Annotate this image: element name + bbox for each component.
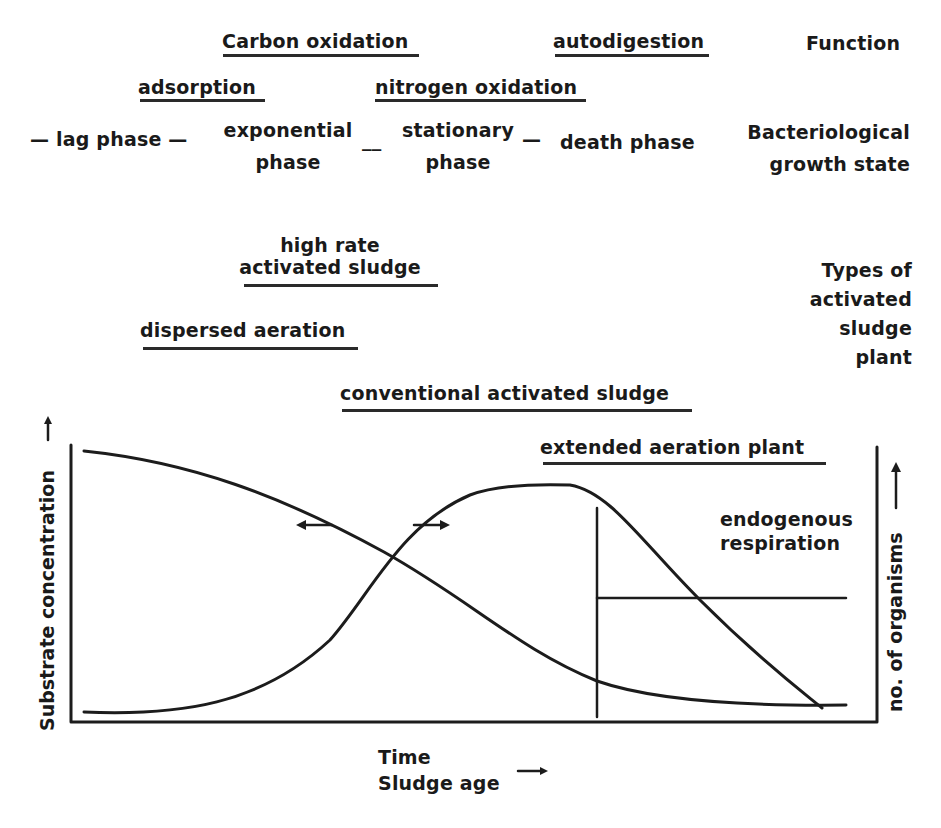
y-axis-left-label: Substrate concentration: [36, 470, 58, 731]
x-axis-label-time: Time: [378, 745, 431, 769]
arrow-up-icon: [891, 462, 901, 472]
x-axis-label-sludge-age: Sludge age: [378, 771, 500, 795]
substrate-curve: [84, 451, 846, 705]
y-axis-right-label: no. of organisms: [884, 532, 906, 712]
arrow-right-icon: [440, 520, 450, 530]
annotation-respiration: respiration: [720, 531, 840, 555]
chart-axes: [71, 445, 877, 722]
arrow-left-icon: [296, 520, 306, 530]
annotation-endogenous: endogenous: [720, 507, 853, 531]
growth-curve-chart: [0, 0, 941, 828]
